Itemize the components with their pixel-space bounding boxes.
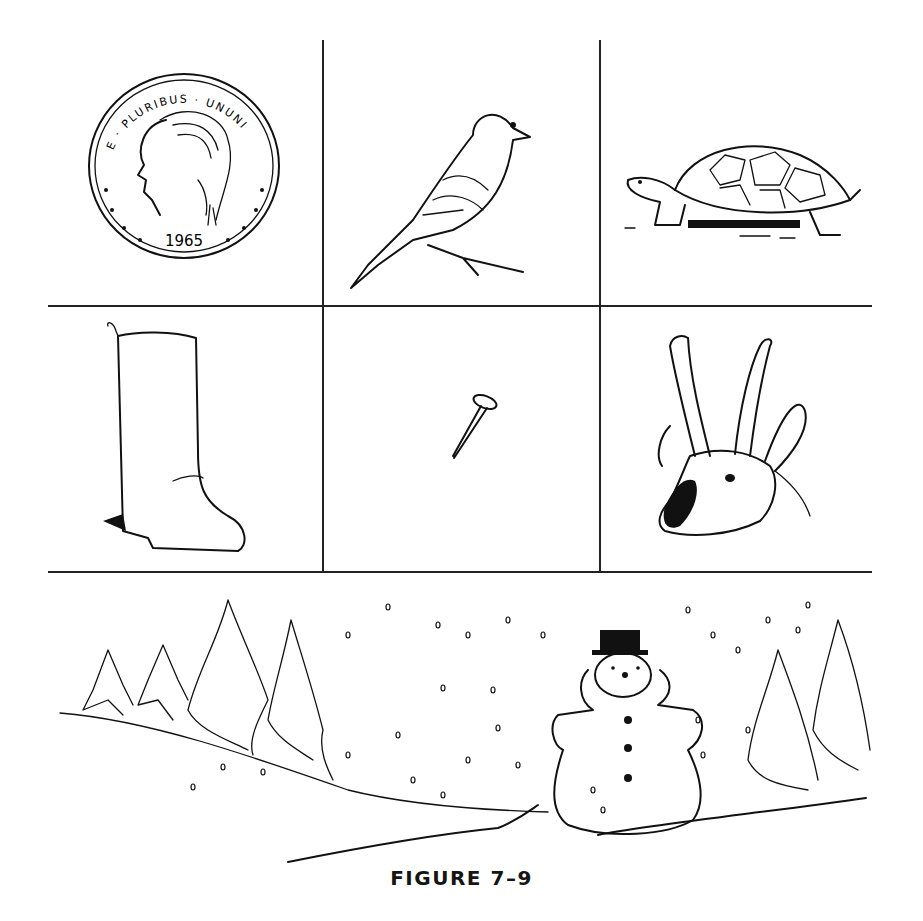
snowman-landscape-illustration (48, 580, 878, 865)
coin-icon: 1965 E · PLURIBUS · UNUNI (48, 40, 322, 305)
boot-icon (48, 306, 322, 571)
snow-scene (48, 580, 878, 865)
bird-cell (323, 40, 599, 305)
bird-icon (323, 40, 599, 305)
nail-icon (323, 306, 599, 571)
antelope-cell (600, 306, 872, 571)
coin-year: 1965 (165, 232, 203, 250)
figure-caption: FIGURE 7–9 (0, 866, 923, 890)
grid-horizontal-line-2 (48, 571, 872, 573)
boot-cell (48, 306, 322, 571)
turtle-icon (600, 40, 872, 305)
antelope-icon (600, 306, 872, 571)
turtle-cell (600, 40, 872, 305)
nail-cell (323, 306, 599, 571)
coin-cell: 1965 E · PLURIBUS · UNUNI (48, 40, 322, 305)
